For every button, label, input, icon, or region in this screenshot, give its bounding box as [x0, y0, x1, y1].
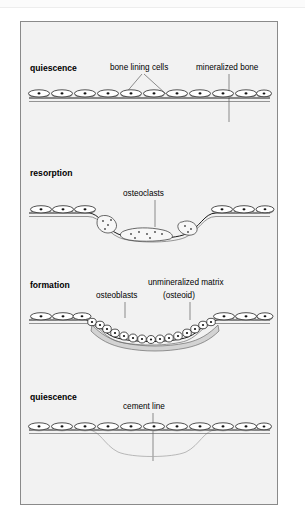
flat-cell [73, 313, 91, 321]
flat-cell [121, 90, 142, 98]
flat-cell [53, 206, 74, 214]
osteoblast [207, 318, 216, 325]
flat-cell [236, 313, 257, 321]
flat-cell [213, 423, 234, 431]
label-osteoid: (osteoid) [163, 291, 195, 300]
bone-remodeling-diagram: quiescence bone lining cells mineralized… [0, 0, 305, 527]
flat-cell [52, 90, 73, 98]
flat-cell [236, 90, 257, 98]
flat-cell [52, 423, 73, 431]
flat-cell [121, 423, 142, 431]
flat-cell [29, 423, 50, 431]
bone-lining-cell-row-1 [29, 90, 272, 98]
flat-cell [256, 206, 274, 214]
osteoblast [138, 335, 147, 343]
flat-cell [75, 90, 96, 98]
stage-label-quiescence-2: quiescence [30, 392, 77, 402]
flat-cell [234, 206, 255, 214]
label-unmineralized-matrix: unmineralized matrix [148, 278, 224, 287]
label-mineralized-bone: mineralized bone [196, 63, 259, 72]
bone-lining-cell-row-3-right [214, 313, 274, 321]
osteoblast [103, 325, 112, 333]
label-bone-lining-cells: bone lining cells [110, 63, 168, 72]
flat-cell [257, 90, 272, 98]
bone-lining-cell-row-3-left [31, 313, 92, 321]
flat-cell [213, 90, 234, 98]
bone-lining-cell-row-2-left [31, 206, 96, 214]
osteoblast [156, 335, 165, 343]
flat-cell [29, 90, 50, 98]
panel-quiescence-1: quiescence bone lining cells mineralized… [29, 63, 272, 122]
flat-cell [214, 313, 235, 321]
osteoblast [199, 321, 208, 329]
label-osteoblasts: osteoblasts [96, 291, 137, 300]
label-osteoclasts: osteoclasts [123, 189, 164, 198]
flat-cell [144, 90, 165, 98]
panel-resorption: resorption osteoclasts [29, 168, 274, 242]
stage-label-formation: formation [30, 280, 70, 290]
cement-line-curve [88, 430, 216, 457]
flat-cell [31, 313, 52, 321]
osteoblast [147, 336, 156, 344]
osteoblast [183, 329, 192, 337]
flat-cell [31, 206, 52, 214]
panel-quiescence-2: quiescence cement line [29, 392, 272, 461]
flat-cell [144, 423, 165, 431]
flat-cell [257, 423, 272, 431]
osteoblast [120, 332, 129, 340]
flat-cell [98, 423, 119, 431]
flat-cell [190, 90, 211, 98]
panel-formation: formation osteoblasts unmineralized matr… [29, 278, 273, 351]
osteoblast [174, 332, 183, 340]
flat-cell [75, 206, 96, 214]
stage-label-resorption: resorption [30, 168, 73, 178]
flat-cell [212, 206, 233, 214]
osteoclast-group [97, 215, 197, 241]
flat-cell [257, 313, 273, 321]
flat-cell [98, 90, 119, 98]
osteoblast [165, 334, 174, 342]
label-cement-line: cement line [123, 402, 165, 411]
stage-label-quiescence-1: quiescence [30, 63, 77, 73]
flat-cell [236, 423, 257, 431]
flat-cell [167, 423, 188, 431]
osteoblast [111, 329, 120, 337]
flat-cell [75, 423, 96, 431]
flat-cell [190, 423, 211, 431]
osteoblast [129, 334, 138, 342]
flat-cell [53, 313, 74, 321]
flat-cell [167, 90, 188, 98]
bone-lining-cell-row-2-right [212, 206, 275, 214]
osteoblast [191, 325, 200, 333]
